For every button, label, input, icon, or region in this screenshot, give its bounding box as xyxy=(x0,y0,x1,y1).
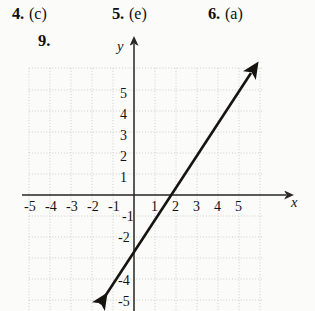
answer-item-5: 5.(e) xyxy=(112,4,147,24)
y-tick-label: -2 xyxy=(118,230,130,245)
y-tick-label: 4 xyxy=(120,107,127,122)
x-axis-label: x xyxy=(290,194,298,210)
y-axis-label: y xyxy=(115,38,124,54)
grid-lines xyxy=(29,68,262,311)
y-tick-label: 1 xyxy=(120,170,127,185)
page-root: 4.(c) 5.(e) 6.(a) 9. xyxy=(0,0,315,311)
y-tick-label: 3 xyxy=(120,128,127,143)
x-tick-label: 1 xyxy=(151,199,158,214)
answer-value-4: (c) xyxy=(29,5,47,22)
x-tick-label: 3 xyxy=(193,199,200,214)
x-tick-label: -1 xyxy=(108,199,120,214)
y-tick-label: 5 xyxy=(120,86,127,101)
answer-number-6: 6. xyxy=(208,4,220,23)
answer-value-5: (e) xyxy=(129,5,147,22)
graph-figure: y x -5 -4 -3 -2 -1 1 2 3 4 5 5 4 3 2 xyxy=(0,24,315,311)
x-tick-label: -2 xyxy=(87,199,99,214)
answer-item-4: 4.(c) xyxy=(12,4,47,24)
x-tick-label: -3 xyxy=(66,199,78,214)
x-tick-label: -4 xyxy=(45,199,57,214)
answer-item-6: 6.(a) xyxy=(208,4,243,24)
answer-value-6: (a) xyxy=(225,5,243,22)
answer-number-4: 4. xyxy=(12,4,24,23)
x-tick-label: 4 xyxy=(214,199,221,214)
y-tick-labels: 5 4 3 2 1 -1 -2 -4 -5 xyxy=(118,86,134,309)
x-tick-label: 5 xyxy=(235,199,242,214)
x-tick-label: 2 xyxy=(172,199,179,214)
x-tick-label: -5 xyxy=(24,199,36,214)
y-tick-label: -5 xyxy=(118,294,130,309)
y-tick-label: 2 xyxy=(120,149,127,164)
y-tick-label: -1 xyxy=(122,209,134,224)
answer-number-5: 5. xyxy=(112,4,124,23)
